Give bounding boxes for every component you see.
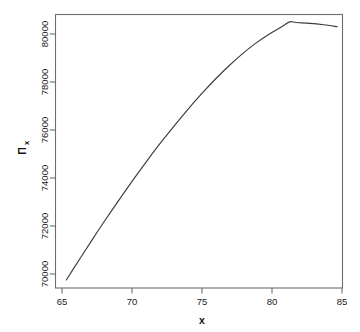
y-tick-marks (50, 34, 56, 274)
x-tick-labels: 65 70 75 80 85 (57, 296, 348, 307)
x-tick-label-65: 65 (57, 296, 68, 307)
y-tick-label-70000: 70000 (39, 261, 50, 287)
y-tick-label-72000: 72000 (39, 213, 50, 239)
y-axis-title-subscript: x (22, 140, 31, 145)
y-axis-title: Π x (16, 140, 31, 155)
y-tick-label-74000: 74000 (39, 165, 50, 191)
y-tick-label-76000: 76000 (39, 117, 50, 143)
x-tick-label-75: 75 (197, 296, 208, 307)
plot-canvas: 80000 78000 76000 74000 72000 70000 Π x … (0, 0, 360, 332)
y-tick-label-78000: 78000 (39, 69, 50, 95)
y-tick-label-80000: 80000 (39, 21, 50, 47)
x-tick-marks (62, 288, 342, 294)
chart-figure: 80000 78000 76000 74000 72000 70000 Π x … (0, 0, 360, 332)
y-tick-labels: 80000 78000 76000 74000 72000 70000 (39, 21, 50, 287)
x-tick-label-85: 85 (337, 296, 348, 307)
x-tick-label-70: 70 (127, 296, 138, 307)
x-axis-title: x (199, 314, 205, 326)
y-axis-title-symbol: Π (16, 147, 28, 155)
profit-curve (66, 22, 337, 280)
x-tick-label-80: 80 (267, 296, 278, 307)
plot-box (56, 15, 343, 289)
